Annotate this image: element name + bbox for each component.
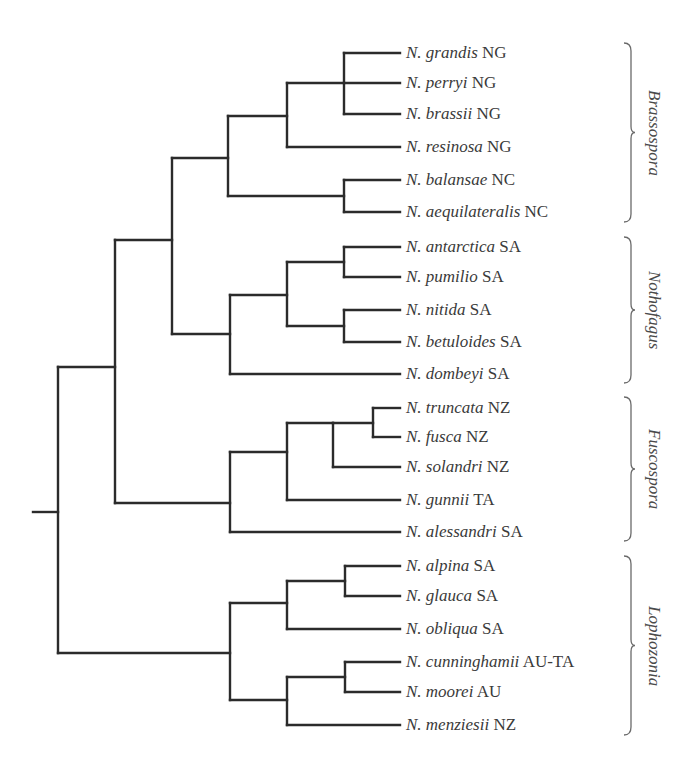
species-name: glauca xyxy=(426,586,472,605)
taxon-label: N. grandis NG xyxy=(406,43,507,63)
region-code: SA xyxy=(476,586,498,605)
species-name: betuloides xyxy=(426,332,496,351)
taxon-label: N. obliqua SA xyxy=(406,619,504,639)
region-code: SA xyxy=(482,267,504,286)
region-code: TA xyxy=(473,490,494,509)
species-name: dombeyi xyxy=(426,364,484,383)
genus-abbrev: N. xyxy=(406,202,422,221)
taxon-label: N. cunninghamii AU-TA xyxy=(406,652,574,672)
group-bracket xyxy=(624,237,635,383)
taxon-label: N. balansae NC xyxy=(406,170,515,190)
group-label: Fuscospora xyxy=(644,429,664,509)
taxon-label: N. nitida SA xyxy=(406,300,492,320)
region-code: AU-TA xyxy=(523,652,575,671)
species-name: fusca xyxy=(426,427,462,446)
taxon-label: N. perryi NG xyxy=(406,73,496,93)
species-name: pumilio xyxy=(426,267,478,286)
genus-abbrev: N. xyxy=(406,170,422,189)
taxon-label: N. pumilio SA xyxy=(406,267,504,287)
region-code: NG xyxy=(472,73,497,92)
genus-abbrev: N. xyxy=(406,43,422,62)
taxon-label: N. resinosa NG xyxy=(406,137,512,157)
region-code: SA xyxy=(499,237,521,256)
region-code: NZ xyxy=(466,427,489,446)
region-code: SA xyxy=(470,300,492,319)
taxon-label: N. fusca NZ xyxy=(406,427,489,447)
region-code: NC xyxy=(525,202,549,221)
genus-abbrev: N. xyxy=(406,267,422,286)
taxon-label: N. alpina SA xyxy=(406,556,495,576)
genus-abbrev: N. xyxy=(406,715,422,734)
tree-branches xyxy=(33,53,400,725)
species-name: aequilateralis xyxy=(426,202,520,221)
species-name: obliqua xyxy=(426,619,478,638)
taxon-label: N. aequilateralis NC xyxy=(406,202,548,222)
genus-abbrev: N. xyxy=(406,332,422,351)
species-name: alessandri xyxy=(426,522,497,541)
species-name: nitida xyxy=(426,300,466,319)
species-name: perryi xyxy=(426,73,468,92)
taxon-label: N. dombeyi SA xyxy=(406,364,509,384)
region-code: NG xyxy=(476,104,501,123)
genus-abbrev: N. xyxy=(406,73,422,92)
taxon-label: N. alessandri SA xyxy=(406,522,523,542)
taxon-label: N. brassii NG xyxy=(406,104,501,124)
species-name: alpina xyxy=(426,556,469,575)
species-name: grandis xyxy=(426,43,478,62)
region-code: SA xyxy=(474,556,496,575)
region-code: NG xyxy=(487,137,512,156)
genus-abbrev: N. xyxy=(406,427,422,446)
genus-abbrev: N. xyxy=(406,619,422,638)
species-name: menziesii xyxy=(426,715,489,734)
genus-abbrev: N. xyxy=(406,398,422,417)
genus-abbrev: N. xyxy=(406,137,422,156)
genus-abbrev: N. xyxy=(406,364,422,383)
species-name: solandri xyxy=(426,457,483,476)
group-label: Lophozonia xyxy=(644,606,664,686)
group-brackets xyxy=(624,43,635,735)
group-label: Brassospora xyxy=(644,90,664,176)
region-code: SA xyxy=(482,619,504,638)
species-name: moorei xyxy=(426,682,474,701)
group-bracket xyxy=(624,397,635,541)
genus-abbrev: N. xyxy=(406,300,422,319)
group-bracket xyxy=(624,556,635,735)
genus-abbrev: N. xyxy=(406,490,422,509)
region-code: SA xyxy=(500,332,522,351)
species-name: truncata xyxy=(426,398,484,417)
region-code: NZ xyxy=(487,457,510,476)
taxon-label: N. solandri NZ xyxy=(406,457,509,477)
species-name: antarctica xyxy=(426,237,495,256)
species-name: balansae xyxy=(426,170,487,189)
tree-diagram xyxy=(0,0,687,766)
genus-abbrev: N. xyxy=(406,682,422,701)
genus-abbrev: N. xyxy=(406,457,422,476)
taxon-label: N. gunnii TA xyxy=(406,490,495,510)
taxon-label: N. antarctica SA xyxy=(406,237,521,257)
region-code: NG xyxy=(482,43,507,62)
region-code: SA xyxy=(488,364,510,383)
genus-abbrev: N. xyxy=(406,237,422,256)
taxon-label: N. betuloides SA xyxy=(406,332,522,352)
genus-abbrev: N. xyxy=(406,522,422,541)
group-label: Nothofagus xyxy=(644,271,664,349)
region-code: NZ xyxy=(488,398,511,417)
taxon-label: N. glauca SA xyxy=(406,586,498,606)
species-name: gunnii xyxy=(426,490,469,509)
taxon-label: N. moorei AU xyxy=(406,682,501,702)
region-code: SA xyxy=(501,522,523,541)
genus-abbrev: N. xyxy=(406,556,422,575)
genus-abbrev: N. xyxy=(406,652,422,671)
species-name: brassii xyxy=(426,104,472,123)
genus-abbrev: N. xyxy=(406,104,422,123)
species-name: cunninghamii xyxy=(426,652,520,671)
region-code: NZ xyxy=(493,715,516,734)
genus-abbrev: N. xyxy=(406,586,422,605)
region-code: NC xyxy=(491,170,515,189)
region-code: AU xyxy=(477,682,502,701)
species-name: resinosa xyxy=(426,137,483,156)
taxon-label: N. menziesii NZ xyxy=(406,715,516,735)
taxon-label: N. truncata NZ xyxy=(406,398,510,418)
group-bracket xyxy=(624,43,635,222)
